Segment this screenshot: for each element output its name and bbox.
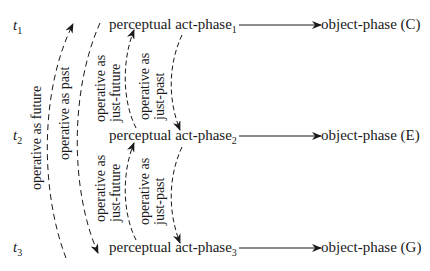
label-just-past-1: operative asjust-past	[137, 53, 168, 120]
label-just-future-1: operative asjust-future	[93, 55, 124, 122]
act-phase-2: perceptual act-phase2	[109, 128, 237, 146]
object-phase-g: object-phase (G)	[321, 240, 421, 255]
label-operative-as-future: operative as future	[29, 86, 44, 190]
arrow-just-past-2	[171, 147, 182, 243]
label-just-future-2: operative asjust-future	[93, 155, 124, 222]
time-label-t3: t3	[13, 240, 22, 258]
arrow-just-past-1	[171, 35, 182, 130]
time-label-t1: t1	[13, 18, 22, 36]
arrow-just-future-2	[125, 143, 136, 240]
label-just-past-2: operative asjust-past	[137, 158, 168, 225]
act-phase-1: perceptual act-phase1	[109, 17, 237, 35]
arrow-just-future-1	[125, 30, 136, 128]
label-operative-as-past: operative as past	[57, 67, 72, 160]
object-phase-e: object-phase (E)	[321, 128, 420, 143]
time-label-t2: t2	[13, 128, 22, 146]
act-phase-3: perceptual act-phase3	[109, 240, 237, 258]
object-phase-c: object-phase (C)	[321, 17, 421, 32]
